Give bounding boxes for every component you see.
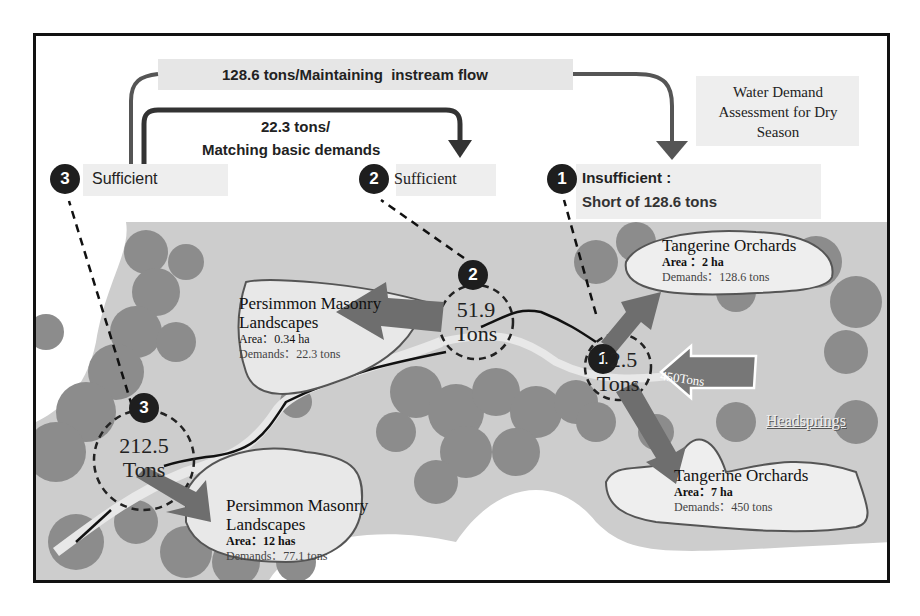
area-demands: Demands：77.1 tons [226,549,368,564]
node-1-value: 12.5 Tons [584,348,652,396]
persimmon-landscape-1: Persimmon Masonry Landscapes Area：0.34 h… [239,294,381,362]
node-2-tons: 51.9 [439,298,513,322]
diagram-frame: 128.6 tons/Maintaining instream flow Wat… [33,33,890,583]
status-3-label: Sufficient [92,170,158,188]
node-3-unit: Tons [96,458,192,482]
tangerine-orchard-2: Tangerine Orchards Area：7 ha Demands：450… [674,466,808,515]
status-3-badge: 3 [50,164,80,194]
area-name-2: Landscapes [226,515,368,534]
area-demands: Demands：128.6 tons [662,270,796,285]
status-1-label-2: Short of 128.6 tons [582,193,717,210]
node-3-value: 212.5 Tons [96,434,192,482]
status-1-badge: 1 [547,164,577,194]
instream-flow-label: 128.6 tons/Maintaining instream flow [222,66,488,83]
area-name-1: Persimmon Masonry [226,496,368,515]
area-name-1: Persimmon Masonry [239,294,381,313]
node-2-value: 51.9 Tons [439,298,513,346]
area-demands: Demands：22.3 tons [239,347,381,362]
status-2-badge: 2 [359,164,389,194]
basic-demands-label-2: Matching basic demands [202,141,380,158]
area-name: Tangerine Orchards [662,236,796,255]
area-size: Area：12 has [226,534,368,549]
node-1-tons: 12.5 [584,348,652,372]
area-demands: Demands：450 tons [674,500,808,515]
node-2-unit: Tons [439,322,513,346]
persimmon-landscape-2: Persimmon Masonry Landscapes Area：12 has… [226,496,368,564]
headsprings-label: Headsprings [766,412,846,430]
node-3-badge: 3 [129,393,159,423]
basic-demands-label-1: 22.3 tons/ [261,118,330,135]
status-2-label: Sufficient [394,170,457,188]
area-size: Area ：2 ha [662,255,796,270]
area-size: Area：0.34 ha [239,332,381,347]
area-name: Tangerine Orchards [674,466,808,485]
node-3-tons: 212.5 [96,434,192,458]
node-1-unit: Tons [584,372,652,396]
tangerine-orchard-1: Tangerine Orchards Area ：2 ha Demands：12… [662,236,796,285]
area-name-2: Landscapes [239,313,381,332]
title-text: Water Demand Assessment for Dry Season [712,82,844,142]
area-size: Area：7 ha [674,485,808,500]
status-1-label-1: Insufficient : [582,169,671,186]
node-2-badge: 2 [458,260,488,290]
